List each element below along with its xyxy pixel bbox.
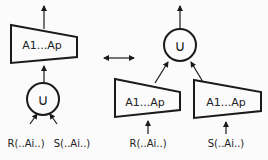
right-union-symbol: ∪ [175,37,186,55]
right-left-projection-to-union-arrow [155,62,168,83]
left-union-symbol: ∪ [38,91,49,109]
right-projection-r-label: A1...Ap [125,96,165,109]
right-expression: ∪ A1...Ap A1...Ap R(..Ai..) S(..Ai..) [115,6,261,149]
left-projection-label: A1...Ap [22,39,62,52]
right-right-projection-to-union-arrow [191,62,203,82]
right-projection-s-label: A1...Ap [206,96,246,109]
left-expression: A1...Ap ∪ R(..Ai..) S(..Ai..) [7,6,90,149]
right-r-relation-label: R(..Ai..) [129,138,166,149]
right-s-relation-label: S(..Ai..) [208,138,245,149]
diagram-canvas: A1...Ap ∪ R(..Ai..) S(..Ai..) ∪ A1...Ap … [0,0,268,160]
left-r-input-arrow [30,114,37,124]
left-s-input-arrow [50,114,57,124]
left-s-relation-label: S(..Ai..) [54,138,91,149]
left-r-relation-label: R(..Ai..) [7,138,44,149]
